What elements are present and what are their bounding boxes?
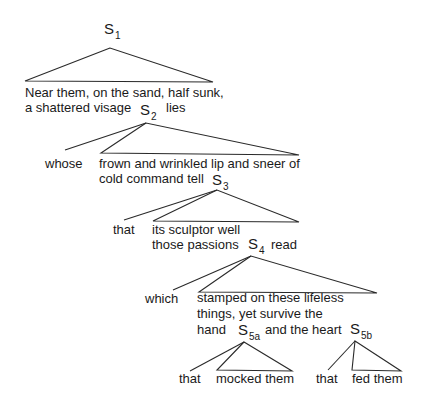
s3-text-line-1: its sculptor well — [152, 222, 240, 237]
s2-text-line-1: frown and wrinkled lip and sneer of — [99, 156, 300, 171]
s1-text-line-1: Near them, on the sand, half sunk, — [25, 85, 224, 100]
mocked-them-label: mocked them — [216, 371, 294, 386]
s1-text-line-2: a shattered visage — [25, 100, 131, 115]
node-s4: S 4 — [248, 235, 265, 256]
which-label: which — [144, 291, 178, 306]
that-label-3: that — [316, 371, 338, 386]
node-s1-label: S — [104, 20, 114, 37]
node-s3-label: S — [212, 171, 222, 188]
node-s1-subscript: 1 — [115, 30, 121, 41]
s1-text-lies: lies — [166, 100, 186, 115]
triangle-s4 — [199, 256, 377, 293]
s3-text-line-2: those passions — [152, 237, 239, 252]
s4-text-line-3-hand: hand — [197, 322, 226, 337]
branch-s2-whose — [65, 123, 146, 150]
whose-label: whose — [44, 156, 83, 171]
node-s5a-subscript: 5a — [249, 331, 261, 342]
node-s5b-subscript: 5b — [361, 330, 373, 341]
node-s3-subscript: 3 — [223, 181, 229, 192]
node-s5b-label: S — [350, 320, 360, 337]
node-s2-label: S — [140, 101, 150, 118]
triangle-s3 — [153, 190, 299, 222]
s4-text-line-1: stamped on these lifeless — [197, 290, 344, 305]
branch-s3-that — [124, 190, 217, 220]
triangle-s5b — [352, 341, 401, 371]
node-s1: S 1 — [104, 20, 121, 41]
node-s4-label: S — [248, 235, 258, 252]
fed-them-label: fed them — [352, 371, 403, 386]
node-s3: S 3 — [212, 171, 229, 192]
node-s2-subscript: 2 — [151, 111, 157, 122]
node-s5b: S 5b — [350, 320, 373, 341]
syntax-tree-diagram: S 1 Near them, on the sand, half sunk, a… — [0, 0, 426, 405]
triangle-s5a — [217, 342, 292, 371]
branch-s5b-that — [328, 341, 355, 370]
that-label-1: that — [113, 222, 135, 237]
s4-text-line-3-heart: and the heart — [265, 322, 342, 337]
s4-text-line-2: things, yet survive the — [197, 306, 323, 321]
node-s5a-label: S — [238, 321, 248, 338]
node-s2: S 2 — [140, 101, 157, 122]
s2-text-line-2: cold command tell — [99, 171, 204, 186]
branch-s4-which — [173, 256, 251, 290]
that-label-2: that — [179, 371, 201, 386]
s3-text-read: read — [271, 237, 297, 252]
node-s4-subscript: 4 — [259, 245, 265, 256]
triangle-s1 — [25, 48, 213, 82]
branch-s5a-that — [190, 342, 244, 371]
node-s5a: S 5a — [238, 321, 261, 342]
